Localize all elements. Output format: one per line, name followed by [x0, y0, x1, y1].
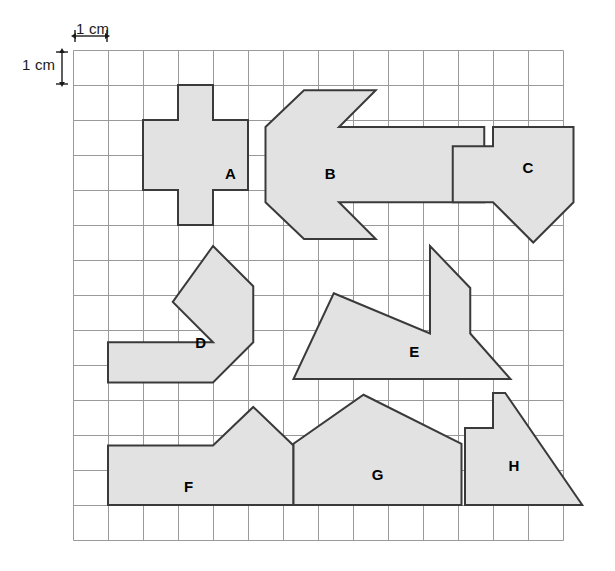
shape-b[interactable] [266, 90, 485, 239]
dimension-annotations [56, 30, 107, 84]
shape-a[interactable] [143, 85, 248, 225]
shape-f[interactable] [108, 407, 294, 505]
shape-e[interactable] [294, 246, 511, 379]
shape-h[interactable] [465, 393, 582, 505]
shapes-worksheet [0, 0, 615, 571]
horizontal-dimension-label: 1 cm [76, 20, 109, 37]
shape-d[interactable] [108, 246, 253, 383]
vertical-dimension-label: 1 cm [22, 56, 55, 73]
